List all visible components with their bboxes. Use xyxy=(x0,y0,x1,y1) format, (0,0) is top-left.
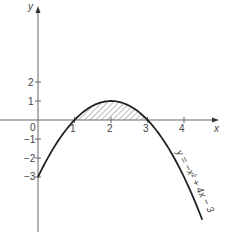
x-tick-label-3: 3 xyxy=(143,123,149,134)
y-tick-label-neg1: −1 xyxy=(24,134,36,145)
y-axis-arrow-icon xyxy=(36,6,41,13)
x-tick-label-4: 4 xyxy=(179,123,185,134)
parabola-plot: y x 0 1 2 3 4 1 2 −1 −2 −3 y = −x² + 4x … xyxy=(0,0,228,235)
origin-label: 0 xyxy=(30,122,36,133)
x-axis-label: x xyxy=(213,123,220,134)
y-tick-label-neg2: −2 xyxy=(24,153,36,164)
x-tick-label-2: 2 xyxy=(107,123,113,134)
y-tick-label-2: 2 xyxy=(28,77,34,88)
x-tick-label-1: 1 xyxy=(70,123,76,134)
graph-figure: y x 0 1 2 3 4 1 2 −1 −2 −3 y = −x² + 4x … xyxy=(0,0,228,235)
x-axis-arrow-icon xyxy=(212,118,219,123)
y-axis-label: y xyxy=(27,1,34,12)
y-tick-label-1: 1 xyxy=(28,96,34,107)
y-tick-label-neg3: −3 xyxy=(24,171,36,182)
